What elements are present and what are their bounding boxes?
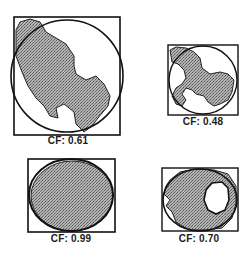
hole-region	[204, 182, 229, 214]
shape-figure-4	[0, 0, 249, 255]
cf-label: CF: 0.70	[179, 233, 220, 244]
shape-panel-cf-070: CF: 0.70	[0, 0, 249, 255]
